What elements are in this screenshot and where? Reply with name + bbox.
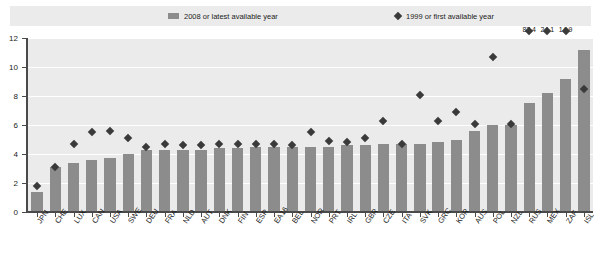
bar-nld: [177, 150, 188, 212]
marker-can: [88, 128, 96, 136]
bar-fin: [232, 148, 243, 212]
y-axis-tick-label: 6: [14, 121, 18, 130]
legend-entry-bars: 2008 or latest available year: [168, 6, 278, 26]
bar-can: [86, 160, 97, 212]
marker-grc: [434, 116, 442, 124]
marker-dnk: [215, 140, 223, 148]
bar-svk: [414, 144, 425, 212]
y-axis-tick-label: 2: [14, 179, 18, 188]
marker-lux: [69, 140, 77, 148]
bar-zaf: [560, 79, 571, 212]
legend-label-markers: 1999 or first available year: [406, 12, 494, 21]
y-axis-tick: [22, 38, 26, 39]
y-axis-line: [26, 38, 28, 212]
bar-aus: [469, 131, 480, 212]
diamond-marker-icon: [394, 12, 402, 20]
marker-prt: [324, 137, 332, 145]
bar-lux: [68, 163, 79, 212]
bar-fra: [159, 150, 170, 212]
y-axis-tick-label: 12: [9, 34, 18, 43]
bar-isl: [578, 50, 589, 212]
bar-swe: [123, 154, 134, 212]
marker-svk: [416, 90, 424, 98]
y-axis-tick-label: 4: [14, 150, 18, 159]
bar-nor: [305, 147, 316, 212]
bar-irl: [341, 145, 352, 212]
bar-kor: [451, 140, 462, 213]
y-axis-tick: [22, 154, 26, 155]
marker-gbr: [361, 134, 369, 142]
bar-ita: [396, 144, 407, 212]
legend-label-bars: 2008 or latest available year: [184, 12, 278, 21]
bar-mex: [542, 93, 553, 212]
bar-rus: [524, 103, 535, 212]
bar-grc: [432, 142, 443, 212]
marker-pol: [489, 53, 497, 61]
marker-swe: [124, 134, 132, 142]
bar-bel: [287, 147, 298, 212]
bar-dnk: [214, 148, 225, 212]
bar-prt: [323, 147, 334, 212]
legend-entry-markers: 1999 or first available year: [395, 6, 494, 26]
marker-usa: [106, 127, 114, 135]
y-axis-tick: [22, 125, 26, 126]
gridline: [28, 96, 593, 97]
bar-gbr: [360, 145, 371, 212]
marker-aus: [470, 119, 478, 127]
marker-fra: [160, 140, 168, 148]
bar-esp: [250, 147, 261, 212]
marker-aut: [197, 141, 205, 149]
y-axis-tick: [22, 183, 26, 184]
gridline: [28, 67, 593, 68]
marker-nld: [179, 141, 187, 149]
bar-aut: [195, 150, 206, 212]
bar-swatch-icon: [168, 13, 179, 19]
x-axis-labels: JPNCHELUXCANUSASWEDEUFRANLDAUTDNKFINESPE…: [0, 218, 601, 259]
bar-nzl: [505, 125, 516, 212]
bar-usa: [104, 158, 115, 212]
y-axis-tick: [22, 67, 26, 68]
plot-area: [28, 38, 593, 212]
y-axis-tick-label: 10: [9, 63, 18, 72]
y-axis-tick-label: 8: [14, 92, 18, 101]
annotation-layer: 87.424.114.9: [0, 24, 601, 38]
bar-ea16: [268, 147, 279, 212]
marker-cze: [379, 116, 387, 124]
bar-cze: [378, 144, 389, 212]
marker-fin: [233, 140, 241, 148]
bar-che: [50, 167, 61, 212]
bar-deu: [141, 150, 152, 212]
chart-legend: 2008 or latest available year 1999 or fi…: [10, 6, 591, 26]
gridline: [28, 38, 593, 39]
y-axis-tick: [22, 96, 26, 97]
y-axis-labels: 024681012: [0, 38, 24, 212]
marker-kor: [452, 108, 460, 116]
chart-container: 2008 or latest available year 1999 or fi…: [0, 0, 601, 259]
marker-nor: [306, 128, 314, 136]
bar-pol: [487, 125, 498, 212]
